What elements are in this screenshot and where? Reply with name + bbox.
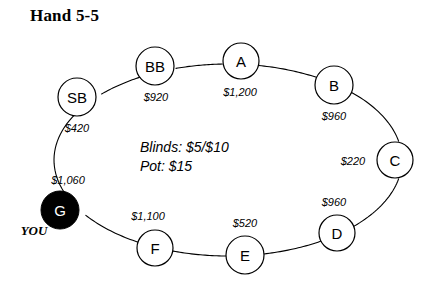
seat-stack-amount: $1,200 bbox=[222, 86, 258, 98]
seat-bb[interactable]: BB bbox=[136, 47, 174, 85]
pot-label: Pot: $15 bbox=[140, 158, 192, 174]
seat-position-label: F bbox=[150, 240, 159, 257]
table-edge-segment bbox=[176, 64, 222, 68]
seat-stack-amount: $960 bbox=[321, 110, 347, 122]
seat-position-label: C bbox=[390, 152, 401, 169]
table-edge-segment bbox=[102, 76, 144, 94]
seat-c[interactable]: C bbox=[377, 142, 413, 178]
seat-stack-amount: $1,060 bbox=[50, 174, 86, 186]
hero-you-label: YOU bbox=[21, 223, 48, 238]
seat-stack-amount: $1,100 bbox=[130, 210, 166, 222]
seat-stack-amount: $520 bbox=[232, 217, 258, 229]
table-edge-segment bbox=[171, 251, 226, 256]
table-edge-segment bbox=[264, 240, 325, 254]
seat-e[interactable]: E bbox=[226, 236, 264, 274]
blinds-label: Blinds: $5/$10 bbox=[140, 139, 229, 155]
seat-d[interactable]: D bbox=[319, 215, 355, 251]
hand-diagram-page: Hand 5-5 SB$420BB$920A$1,200B$960C$220D$… bbox=[0, 0, 433, 289]
seat-f[interactable]: F bbox=[137, 230, 173, 266]
seat-position-label: G bbox=[54, 202, 66, 219]
seat-a[interactable]: A bbox=[223, 43, 259, 79]
table-edge-segment bbox=[259, 66, 321, 79]
table-edge-segment bbox=[351, 179, 398, 228]
seat-position-label: A bbox=[236, 53, 246, 70]
center-info: Blinds: $5/$10Pot: $15 bbox=[140, 139, 229, 174]
seat-position-label: B bbox=[329, 77, 339, 94]
seat-layer: SB$420BB$920A$1,200B$960C$220D$960E$520F… bbox=[21, 43, 413, 274]
seat-stack-amount: $220 bbox=[340, 155, 366, 167]
seat-stack-amount: $960 bbox=[321, 196, 347, 208]
seat-stack-amount: $420 bbox=[64, 122, 90, 134]
seat-position-label: SB bbox=[67, 89, 87, 106]
poker-table-diagram: SB$420BB$920A$1,200B$960C$220D$960E$520F… bbox=[0, 0, 433, 289]
seat-b[interactable]: B bbox=[315, 66, 353, 104]
seat-stack-amount: $920 bbox=[143, 91, 169, 103]
seat-position-label: D bbox=[332, 225, 343, 242]
seat-position-label: E bbox=[240, 247, 250, 264]
seat-position-label: BB bbox=[145, 58, 165, 75]
seat-sb[interactable]: SB bbox=[58, 78, 96, 116]
table-edge-segment bbox=[348, 91, 398, 141]
